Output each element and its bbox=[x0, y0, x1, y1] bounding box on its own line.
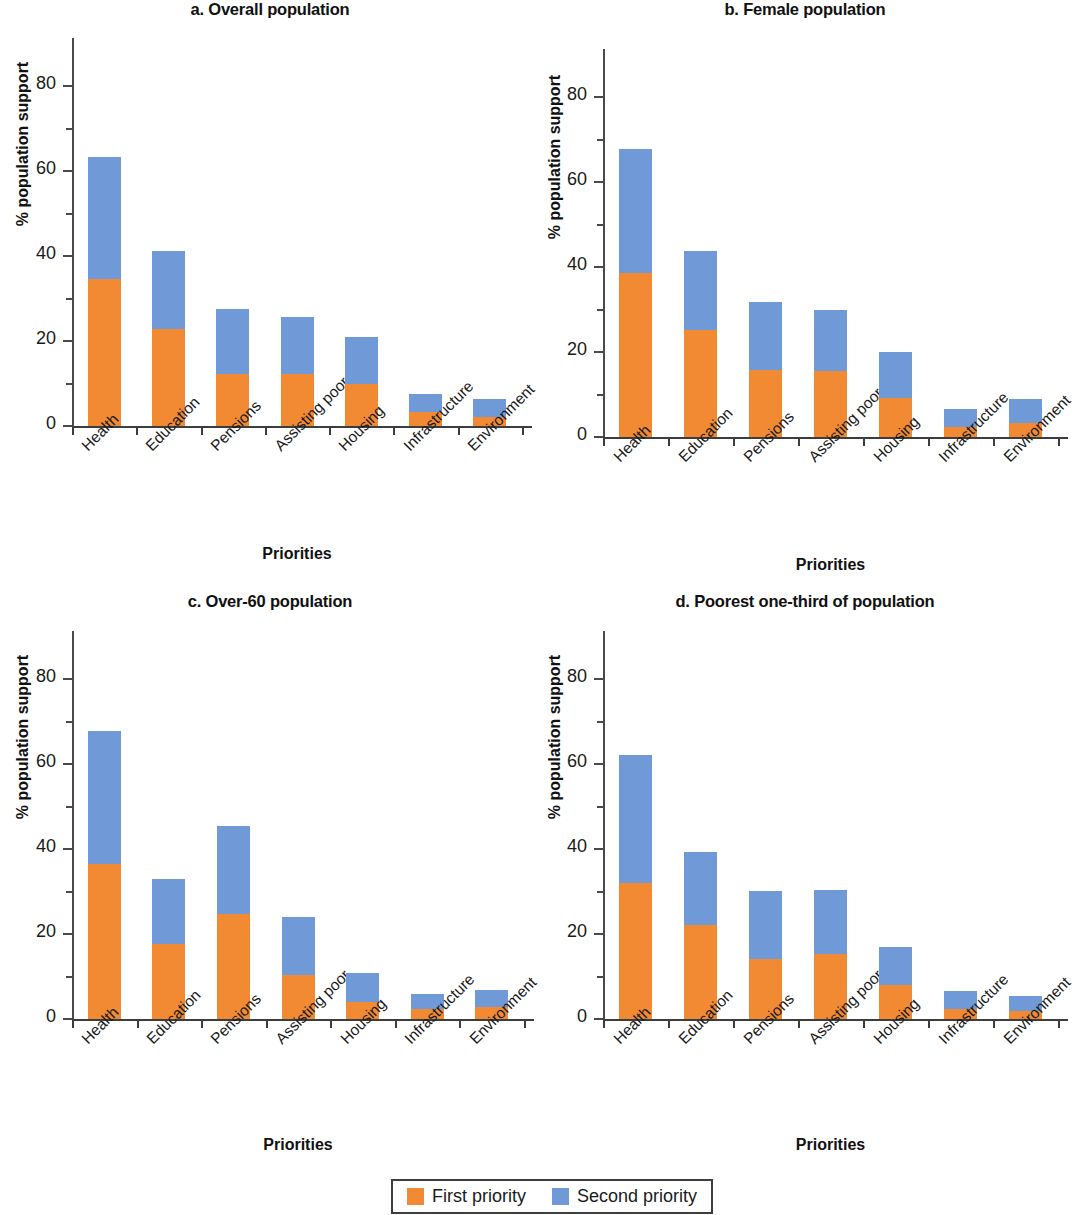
panel-c-y-tick-0 bbox=[63, 1018, 72, 1020]
panel-a-y-axis bbox=[72, 38, 74, 428]
panel-a-y-tick-70 bbox=[66, 128, 72, 130]
bar-segment-first-priority bbox=[88, 864, 121, 1019]
panel-d-x-tick-1 bbox=[668, 1019, 670, 1028]
bar-pensions bbox=[217, 826, 250, 1019]
panel-a-x-tick-5 bbox=[393, 426, 395, 435]
bar-segment-second-priority bbox=[749, 302, 782, 370]
bar-health bbox=[619, 755, 652, 1019]
panel-d-x-tick-3 bbox=[798, 1019, 800, 1028]
bar-segment-first-priority bbox=[619, 273, 652, 437]
legend-item-second-priority: Second priority bbox=[552, 1186, 697, 1207]
panel-d-y-tick-50 bbox=[597, 806, 603, 808]
bar-education bbox=[684, 251, 717, 437]
panel-d-y-tick-20 bbox=[594, 933, 603, 935]
panel-a-y-tick-60 bbox=[63, 170, 72, 172]
legend-item-first-priority: First priority bbox=[407, 1186, 526, 1207]
panel-c-y-tick-label-80: 80 bbox=[10, 666, 56, 687]
panel-b-y-tick-label-80: 80 bbox=[541, 84, 587, 105]
legend-label-first-priority: First priority bbox=[432, 1186, 526, 1207]
panel-c-x-tick-5 bbox=[395, 1019, 397, 1028]
panel-c-title: c. Over-60 population bbox=[0, 592, 540, 611]
panel-a-y-tick-40 bbox=[63, 255, 72, 257]
bar-health bbox=[88, 157, 121, 426]
panel-a-x-tick-2 bbox=[201, 426, 203, 435]
panel-d: d. Poorest one-third of population % pop… bbox=[535, 592, 1075, 1172]
panel-d-y-tick-80 bbox=[594, 678, 603, 680]
panel-a-y-tick-80 bbox=[63, 85, 72, 87]
panel-b-x-axis-label: Priorities bbox=[603, 556, 1058, 574]
panel-b-x-tick-end bbox=[1058, 437, 1060, 446]
panel-b-y-tick-label-60: 60 bbox=[541, 169, 587, 190]
panel-d-y-tick-10 bbox=[597, 976, 603, 978]
bar-health bbox=[88, 731, 121, 1019]
panel-b-y-axis bbox=[603, 49, 605, 439]
panel-d-x-tick-5 bbox=[928, 1019, 930, 1028]
bar-segment-second-priority bbox=[879, 352, 912, 399]
panel-a-x-tick-3 bbox=[265, 426, 267, 435]
panel-d-x-tick-4 bbox=[863, 1019, 865, 1028]
panel-b-y-tick-label-20: 20 bbox=[541, 339, 587, 360]
bar-segment-second-priority bbox=[814, 890, 847, 954]
bar-segment-second-priority bbox=[216, 309, 249, 374]
panel-b-y-tick-70 bbox=[597, 139, 603, 141]
panel-c-y-tick-label-20: 20 bbox=[10, 921, 56, 942]
panel-c: c. Over-60 population % population suppo… bbox=[0, 592, 540, 1172]
panel-d-y-tick-0 bbox=[594, 1018, 603, 1020]
panel-b-y-tick-0 bbox=[594, 436, 603, 438]
panel-b: b. Female population % population suppor… bbox=[535, 0, 1075, 580]
panel-b-x-tick-0 bbox=[603, 437, 605, 446]
bar-segment-second-priority bbox=[217, 826, 250, 915]
panel-b-x-tick-3 bbox=[798, 437, 800, 446]
panel-c-y-tick-label-0: 0 bbox=[10, 1006, 56, 1027]
panel-c-x-tick-4 bbox=[330, 1019, 332, 1028]
panel-c-x-tick-end bbox=[524, 1019, 526, 1028]
panel-b-y-tick-label-40: 40 bbox=[541, 254, 587, 275]
panel-a-y-tick-label-60: 60 bbox=[10, 158, 56, 179]
panel-c-y-tick-70 bbox=[66, 721, 72, 723]
panel-a-x-axis-label: Priorities bbox=[72, 545, 522, 563]
panel-c-x-tick-3 bbox=[266, 1019, 268, 1028]
panel-a-y-tick-0 bbox=[63, 425, 72, 427]
bar-segment-first-priority bbox=[88, 279, 121, 426]
panel-d-x-tick-2 bbox=[733, 1019, 735, 1028]
panel-b-y-tick-60 bbox=[594, 181, 603, 183]
panel-a-x-tick-1 bbox=[136, 426, 138, 435]
panel-d-x-tick-6 bbox=[993, 1019, 995, 1028]
panel-c-y-tick-label-40: 40 bbox=[10, 836, 56, 857]
panel-b-title: b. Female population bbox=[535, 0, 1075, 19]
bar-segment-second-priority bbox=[619, 755, 652, 883]
panel-c-y-tick-60 bbox=[63, 763, 72, 765]
panel-a-title: a. Overall population bbox=[0, 0, 540, 19]
panel-c-x-axis-label: Priorities bbox=[72, 1136, 524, 1154]
bar-education bbox=[684, 852, 717, 1019]
bar-segment-second-priority bbox=[749, 891, 782, 959]
panel-b-y-tick-label-0: 0 bbox=[541, 424, 587, 445]
bar-segment-second-priority bbox=[619, 149, 652, 273]
panel-c-y-axis bbox=[72, 631, 74, 1021]
panel-c-x-tick-2 bbox=[201, 1019, 203, 1028]
panel-a: a. Overall population % population suppo… bbox=[0, 0, 540, 580]
panel-d-y-tick-60 bbox=[594, 763, 603, 765]
panel-d-y-axis bbox=[603, 631, 605, 1021]
panel-b-y-tick-80 bbox=[594, 96, 603, 98]
panel-a-y-tick-10 bbox=[66, 383, 72, 385]
bar-segment-second-priority bbox=[88, 731, 121, 864]
panel-a-y-tick-label-80: 80 bbox=[10, 73, 56, 94]
panel-d-x-tick-0 bbox=[603, 1019, 605, 1028]
legend-swatch-first-priority bbox=[407, 1188, 424, 1205]
panel-a-x-tick-end bbox=[522, 426, 524, 435]
bar-segment-second-priority bbox=[152, 251, 185, 329]
panel-a-x-tick-6 bbox=[458, 426, 460, 435]
panel-a-y-tick-50 bbox=[66, 213, 72, 215]
panel-d-x-tick-end bbox=[1058, 1019, 1060, 1028]
panel-a-y-tick-20 bbox=[63, 340, 72, 342]
panel-d-y-tick-label-0: 0 bbox=[541, 1006, 587, 1027]
panel-a-x-tick-0 bbox=[72, 426, 74, 435]
panel-c-y-tick-40 bbox=[63, 848, 72, 850]
panel-a-y-tick-label-0: 0 bbox=[10, 413, 56, 434]
panel-b-y-tick-10 bbox=[597, 394, 603, 396]
panel-c-y-tick-30 bbox=[66, 891, 72, 893]
panel-c-x-tick-0 bbox=[72, 1019, 74, 1028]
panel-d-y-tick-40 bbox=[594, 848, 603, 850]
panel-b-y-tick-50 bbox=[597, 224, 603, 226]
